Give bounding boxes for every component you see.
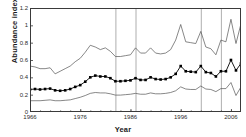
data-point-marker <box>54 89 57 92</box>
data-point-marker <box>159 78 162 81</box>
x-tick-label: 1986 <box>115 114 145 120</box>
data-point-marker <box>200 65 203 68</box>
axis-frame <box>31 9 241 112</box>
axis-tick-marks <box>30 9 241 113</box>
data-point-marker <box>169 76 172 79</box>
data-point-marker <box>235 69 238 72</box>
data-point-marker <box>74 86 77 89</box>
data-point-marker <box>139 79 142 82</box>
data-point-marker <box>210 72 213 75</box>
data-point-marker <box>99 75 102 78</box>
y-tick-label: 1.2 <box>12 5 28 11</box>
data-point-marker <box>205 71 208 74</box>
y-tick-label: 0.2 <box>12 92 28 98</box>
data-point-marker <box>89 76 92 79</box>
data-point-marker <box>69 88 72 91</box>
y-tick-label: 0.4 <box>12 74 28 80</box>
x-tick-label: 2006 <box>216 114 246 120</box>
y-tick-label: 0.6 <box>12 57 28 63</box>
y-tick-label: 0.8 <box>12 40 28 46</box>
data-series-layer <box>30 19 241 100</box>
grid-lines <box>116 8 221 112</box>
data-point-marker <box>189 70 192 73</box>
data-point-marker <box>39 88 42 91</box>
chart-figure: Abundance index Year 00.20.40.60.811.2 1… <box>0 0 246 137</box>
plot-area <box>30 8 241 112</box>
data-point-marker <box>59 89 62 92</box>
series-line-0 <box>30 19 241 74</box>
y-tick-label: 1 <box>12 22 28 28</box>
plot-border <box>31 9 241 112</box>
data-point-marker <box>225 70 228 73</box>
data-point-marker <box>184 70 187 73</box>
data-point-marker <box>194 71 197 74</box>
data-point-marker <box>144 79 147 82</box>
data-point-marker <box>174 73 177 76</box>
x-axis-tick-labels: 19661976198619962006 <box>0 114 246 124</box>
data-point-marker <box>149 76 152 79</box>
data-point-markers <box>30 59 241 92</box>
data-point-marker <box>79 84 82 87</box>
x-tick-label: 1966 <box>15 114 45 120</box>
data-point-marker <box>84 80 87 83</box>
data-point-marker <box>154 78 157 81</box>
data-point-marker <box>179 65 182 68</box>
x-tick-label: 1996 <box>166 114 196 120</box>
data-point-marker <box>164 78 167 81</box>
series-line-2 <box>30 83 241 101</box>
data-point-marker <box>44 88 47 91</box>
series-line-1 <box>30 60 241 91</box>
x-axis-title: Year <box>0 125 246 134</box>
chart-canvas <box>30 8 241 112</box>
data-point-marker <box>94 74 97 77</box>
data-point-marker <box>49 87 52 90</box>
data-point-marker <box>134 77 137 80</box>
data-point-marker <box>109 77 112 80</box>
data-point-marker <box>215 75 218 78</box>
data-point-marker <box>114 80 117 83</box>
x-tick-label: 1976 <box>65 114 95 120</box>
data-point-marker <box>119 80 122 83</box>
data-point-marker <box>129 79 132 82</box>
data-point-marker <box>64 89 67 92</box>
data-point-marker <box>230 59 233 62</box>
data-point-marker <box>124 80 127 83</box>
data-point-marker <box>220 70 223 73</box>
data-point-marker <box>34 88 37 91</box>
data-point-marker <box>104 75 107 78</box>
